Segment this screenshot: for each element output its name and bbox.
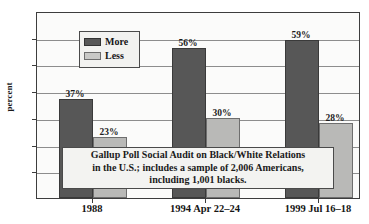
legend-item-less[interactable]: Less bbox=[84, 49, 135, 63]
bar-label-1994-less: 30% bbox=[213, 108, 232, 118]
annotation-line-2: in the U.S.; includes a sample of 2,006 … bbox=[92, 162, 304, 175]
x-tick-label-1994: 1994 Apr 22–24 bbox=[170, 203, 240, 214]
x-tick-label-1988: 1988 bbox=[82, 203, 103, 214]
y-axis-title: percent bbox=[4, 72, 14, 122]
bar-chart: percent 70 60 50 40 30 20 10 0 37% 23% 5… bbox=[0, 0, 369, 224]
bar-label-1988-more: 37% bbox=[66, 89, 85, 99]
legend-label-more: More bbox=[105, 37, 128, 47]
legend[interactable]: More Less bbox=[79, 31, 140, 68]
annotation-line-3: including 1,001 blacks. bbox=[149, 174, 246, 187]
bar-label-1999-less: 28% bbox=[326, 113, 345, 123]
annotation-callout: Gallup Poll Social Audit on Black/White … bbox=[62, 147, 334, 189]
legend-swatch-more-icon bbox=[84, 38, 101, 46]
cropped-title-remnant bbox=[40, 0, 340, 5]
bar-label-1999-more: 59% bbox=[292, 30, 311, 40]
bar-label-1994-more: 56% bbox=[179, 38, 198, 48]
legend-swatch-less-icon bbox=[84, 52, 101, 60]
legend-item-more[interactable]: More bbox=[84, 35, 135, 49]
legend-label-less: Less bbox=[105, 51, 124, 61]
x-tick-label-1999: 1999 Jul 16–18 bbox=[285, 203, 352, 214]
annotation-line-1: Gallup Poll Social Audit on Black/White … bbox=[91, 149, 305, 162]
bar-label-1988-less: 23% bbox=[100, 127, 119, 137]
